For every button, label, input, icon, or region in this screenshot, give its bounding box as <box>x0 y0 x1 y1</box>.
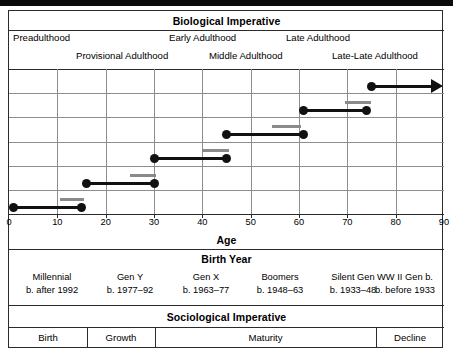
generation-cell-2: Gen Xb. 1963‒77 <box>167 271 245 296</box>
axis-tick-label-0: 0 <box>0 217 22 227</box>
gray-span-bar <box>60 198 84 201</box>
stage-early-adulthood: Early Adulthood <box>169 32 236 43</box>
figure-root: Biological Imperative Preadulthood Early… <box>0 0 453 352</box>
gray-span-bar <box>130 174 157 177</box>
stage-provisional-adulthood: Provisional Adulthood <box>76 50 168 61</box>
socio-stage-decline: Decline <box>376 328 444 347</box>
generation-name: WW II Gen b. <box>366 271 444 284</box>
span-bar <box>227 133 304 136</box>
stage-middle-adulthood: Middle Adulthood <box>209 50 283 61</box>
generation-birth-years: b. 1948‒63 <box>241 284 319 297</box>
stage-late-adulthood: Late Adulthood <box>286 32 350 43</box>
axis-tick-label-50: 50 <box>238 217 264 227</box>
x-axis: 0102030405060708090 <box>9 214 444 230</box>
stage-late-late-adulthood: Late-Late Adulthood <box>332 50 418 61</box>
socio-stage-divider-1 <box>87 328 88 347</box>
socio-stage-divider-2 <box>155 328 156 347</box>
span-end-marker <box>150 179 159 188</box>
stages-lower-row: Provisional Adulthood Middle Adulthood L… <box>9 50 444 68</box>
gridline-horizontal-2 <box>9 117 444 118</box>
span-start-marker <box>367 82 376 91</box>
gridline-horizontal-4 <box>9 166 444 167</box>
span-start-marker <box>299 106 308 115</box>
gridline-horizontal-1 <box>9 93 444 94</box>
generation-birth-years: b. before 1933 <box>366 284 444 297</box>
span-bar <box>304 109 367 112</box>
span-end-marker <box>222 154 231 163</box>
axis-tick-label-20: 20 <box>93 217 119 227</box>
socio-stages-row: BirthGrowthMaturityDecline <box>9 328 444 347</box>
axis-tick-label-90: 90 <box>431 217 453 227</box>
chart-frame: Biological Imperative Preadulthood Early… <box>8 10 443 348</box>
generation-name: Boomers <box>241 271 319 284</box>
socio-stage-maturity: Maturity <box>155 328 376 347</box>
socio-stage-birth: Birth <box>9 328 87 347</box>
span-start-marker <box>150 154 159 163</box>
gridline-horizontal-5 <box>9 190 444 191</box>
span-start-marker <box>82 179 91 188</box>
gray-span-bar <box>345 101 372 104</box>
socio-stage-divider-3 <box>376 328 377 347</box>
birth-year-header: Birth Year <box>9 250 444 267</box>
birth-year-label: Birth Year <box>201 253 251 265</box>
arrow-right-icon <box>431 79 443 93</box>
gridline-horizontal-3 <box>9 142 444 143</box>
axis-tick-label-10: 10 <box>44 217 70 227</box>
axis-tick-label-30: 30 <box>141 217 167 227</box>
axis-tick-label-70: 70 <box>334 217 360 227</box>
span-start-marker <box>9 203 18 212</box>
axis-tick-label-60: 60 <box>286 217 312 227</box>
axis-tick-label-40: 40 <box>189 217 215 227</box>
generations-row: Millennialb. after 1992Gen Yb. 1977‒92Ge… <box>9 267 444 305</box>
generation-name: Millennial <box>13 271 91 284</box>
axis-tick-label-80: 80 <box>383 217 409 227</box>
span-end-marker <box>77 203 86 212</box>
biological-imperative-label: Biological Imperative <box>173 15 281 27</box>
span-bar <box>154 157 227 160</box>
span-bar <box>14 206 82 209</box>
span-start-marker <box>222 130 231 139</box>
generation-cell-3: Boomersb. 1948‒63 <box>241 271 319 296</box>
sociological-imperative-label: Sociological Imperative <box>167 311 287 323</box>
axis-title-row: Age <box>9 230 444 249</box>
generation-name: Gen Y <box>91 271 169 284</box>
gray-span-bar <box>202 149 229 152</box>
generation-birth-years: b. 1977‒92 <box>91 284 169 297</box>
generation-cell-0: Millennialb. after 1992 <box>13 271 91 296</box>
biological-imperative-header: Biological Imperative <box>9 11 444 30</box>
gray-span-bar <box>272 125 301 128</box>
open-ended-span-line <box>372 85 433 88</box>
generation-name: Gen X <box>167 271 245 284</box>
generation-cell-1: Gen Yb. 1977‒92 <box>91 271 169 296</box>
top-black-strip <box>0 0 453 6</box>
span-bar <box>86 182 154 185</box>
stage-preadulthood: Preadulthood <box>13 32 70 43</box>
sociological-imperative-header: Sociological Imperative <box>9 306 444 327</box>
plot-area <box>9 69 444 214</box>
span-end-marker <box>362 106 371 115</box>
divider-below-biological-header <box>9 30 444 31</box>
axis-title-age: Age <box>216 234 236 246</box>
generation-birth-years: b. 1963‒77 <box>167 284 245 297</box>
generation-birth-years: b. after 1992 <box>13 284 91 297</box>
generation-cell-5: WW II Gen b.b. before 1933 <box>366 271 444 296</box>
socio-stage-growth: Growth <box>87 328 155 347</box>
stages-upper-row: Preadulthood Early Adulthood Late Adulth… <box>9 32 444 50</box>
span-end-marker <box>299 130 308 139</box>
